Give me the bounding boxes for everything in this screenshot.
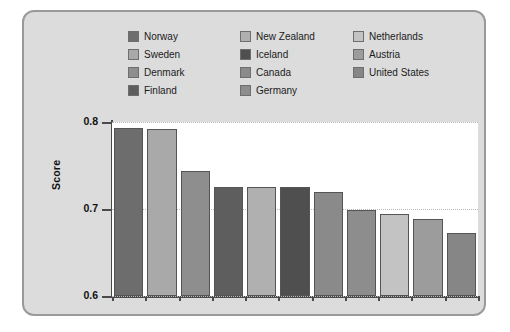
bar-series <box>112 122 478 296</box>
legend-item-label: Denmark <box>144 67 185 78</box>
bar-denmark[interactable] <box>181 171 210 296</box>
bar-slot <box>112 122 145 296</box>
legend-item-label: New Zealand <box>256 31 315 42</box>
bar-slot <box>345 122 378 296</box>
bar-sweden[interactable] <box>147 129 176 296</box>
bar-slot <box>278 122 311 296</box>
legend-swatch-icon <box>353 49 364 60</box>
bar-slot <box>411 122 444 296</box>
bar-finland[interactable] <box>214 187 243 296</box>
bar-norway[interactable] <box>114 128 143 296</box>
legend-swatch-icon <box>128 67 139 78</box>
y-axis-tick-mark <box>102 122 111 124</box>
legend-item-label: Norway <box>144 31 178 42</box>
bar-germany[interactable] <box>347 210 376 296</box>
legend-swatch-icon <box>240 67 251 78</box>
bar-slot <box>445 122 478 296</box>
legend-column: NorwaySwedenDenmarkFinland <box>128 30 240 97</box>
legend-item[interactable]: United States <box>353 66 473 79</box>
bar-slot <box>378 122 411 296</box>
y-axis-tick-mark <box>102 296 111 298</box>
legend-item-label: Canada <box>256 67 291 78</box>
legend-item[interactable]: Norway <box>128 30 240 43</box>
gridline <box>112 296 478 297</box>
y-axis-title: Score <box>50 160 62 190</box>
legend-item-label: Netherlands <box>369 31 423 42</box>
legend-item-label: Austria <box>369 49 400 60</box>
y-axis-tick-label: 0.6 <box>50 289 98 301</box>
legend-column: NetherlandsAustriaUnited States <box>353 30 473 97</box>
legend-item[interactable]: Canada <box>240 66 353 79</box>
legend-item-label: United States <box>369 67 429 78</box>
bar-slot <box>245 122 278 296</box>
legend-item[interactable]: New Zealand <box>240 30 353 43</box>
bar-iceland[interactable] <box>280 187 309 296</box>
legend-item-label: Finland <box>144 85 177 96</box>
legend-item[interactable]: Iceland <box>240 48 353 61</box>
y-axis-tick-label: 0.7 <box>50 202 98 214</box>
bar-united-states[interactable] <box>447 233 476 296</box>
legend-item[interactable]: Netherlands <box>353 30 473 43</box>
legend-swatch-icon <box>240 85 251 96</box>
bar-slot <box>179 122 212 296</box>
legend-swatch-icon <box>128 85 139 96</box>
legend-item[interactable]: Germany <box>240 84 353 97</box>
bar-slot <box>145 122 178 296</box>
bar-slot <box>212 122 245 296</box>
legend-swatch-icon <box>240 31 251 42</box>
legend-item[interactable]: Denmark <box>128 66 240 79</box>
legend-item-label: Sweden <box>144 49 180 60</box>
y-axis-tick-mark <box>102 209 111 211</box>
bar-netherlands[interactable] <box>380 214 409 296</box>
y-axis-tick-label: 0.8 <box>50 115 98 127</box>
plot-area <box>112 122 478 296</box>
legend-swatch-icon <box>128 49 139 60</box>
legend-item[interactable]: Sweden <box>128 48 240 61</box>
legend-column: New ZealandIcelandCanadaGermany <box>240 30 353 97</box>
legend-item[interactable]: Austria <box>353 48 473 61</box>
legend-item[interactable]: Finland <box>128 84 240 97</box>
legend-item-label: Iceland <box>256 49 288 60</box>
legend-item-label: Germany <box>256 85 297 96</box>
legend-swatch-icon <box>353 67 364 78</box>
bar-canada[interactable] <box>314 192 343 296</box>
bar-new-zealand[interactable] <box>247 187 276 296</box>
bar-slot <box>312 122 345 296</box>
legend-swatch-icon <box>128 31 139 42</box>
legend-swatch-icon <box>353 31 364 42</box>
bar-austria[interactable] <box>413 219 442 296</box>
legend-swatch-icon <box>240 49 251 60</box>
chart-legend: NorwaySwedenDenmarkFinlandNew ZealandIce… <box>128 30 478 97</box>
chart-figure-frame: NorwaySwedenDenmarkFinlandNew ZealandIce… <box>22 10 486 316</box>
x-axis-tick-mark <box>478 296 480 301</box>
